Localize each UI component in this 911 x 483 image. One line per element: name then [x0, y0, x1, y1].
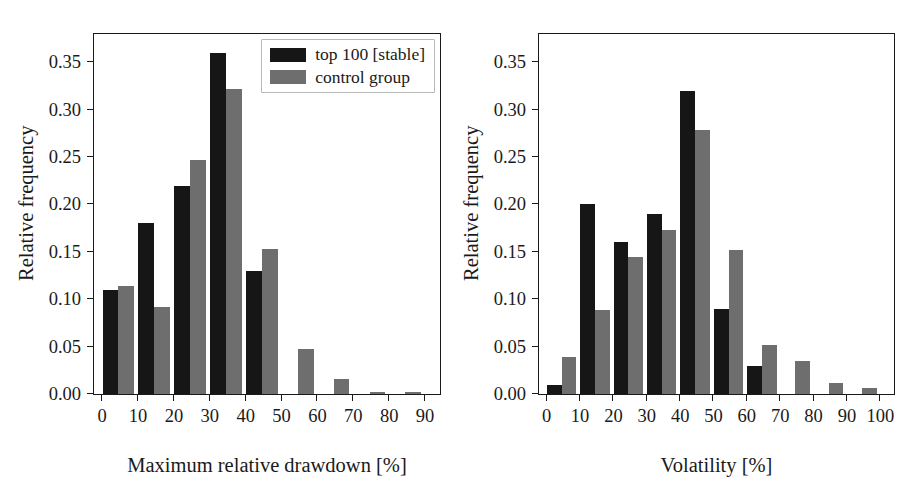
x-tick-volatility-5: 50 [712, 394, 713, 401]
x-axis-title-drawdown: Maximum relative drawdown [%] [93, 455, 441, 476]
bar-drawdown-50-60-control [298, 349, 314, 394]
x-tick-label-drawdown-2: 20 [165, 407, 184, 426]
bar-volatility-20-30-control [628, 257, 643, 394]
x-tick-label-drawdown-6: 60 [308, 407, 327, 426]
x-tick-volatility-8: 80 [813, 394, 814, 401]
x-tick-volatility-6: 60 [746, 394, 747, 401]
bar-drawdown-10-20-top100 [138, 223, 154, 394]
x-tick-label-volatility-5: 50 [704, 407, 723, 426]
bar-drawdown-30-40-top100 [210, 53, 226, 394]
legend-label-top100: top 100 [stable] [315, 46, 425, 64]
y-tick-volatility-4: 0.20 [532, 203, 539, 204]
x-tick-label-drawdown-9: 90 [416, 407, 435, 426]
y-tick-label-volatility-7: 0.35 [494, 53, 526, 72]
x-tick-label-volatility-4: 40 [671, 407, 690, 426]
bar-volatility-10-20-control [595, 310, 610, 394]
y-tick-volatility-7: 0.35 [532, 61, 539, 62]
x-tick-drawdown-3: 30 [209, 394, 210, 401]
plot-area-volatility: 0.000.050.100.150.200.250.300.35 0102030… [538, 33, 895, 395]
y-tick-drawdown-4: 0.20 [87, 203, 94, 204]
y-tick-label-volatility-5: 0.25 [494, 148, 526, 167]
x-tick-drawdown-5: 50 [281, 394, 282, 401]
y-tick-volatility-3: 0.15 [532, 251, 539, 252]
bar-volatility-50-60-top100 [714, 309, 729, 394]
x-tick-volatility-7: 70 [779, 394, 780, 401]
y-axis-title-volatility: Relative frequency [461, 103, 482, 303]
y-tick-label-volatility-3: 0.15 [494, 243, 526, 262]
bar-volatility-30-40-top100 [647, 214, 662, 394]
bar-volatility-30-40-control [662, 230, 677, 394]
x-tick-drawdown-0: 0 [101, 394, 102, 401]
bar-drawdown-0-10-control [118, 286, 134, 394]
bar-drawdown-70-80-control [370, 392, 386, 394]
bar-volatility-40-50-control [695, 130, 710, 394]
bar-volatility-0-10-top100 [547, 385, 562, 394]
legend: top 100 [stable] control group [261, 39, 435, 93]
y-tick-label-drawdown-6: 0.30 [49, 100, 81, 119]
y-tick-drawdown-1: 0.05 [87, 346, 94, 347]
bar-volatility-50-60-control [729, 250, 744, 394]
x-tick-label-drawdown-1: 10 [129, 407, 148, 426]
y-tick-label-drawdown-3: 0.15 [49, 243, 81, 262]
x-tick-label-drawdown-8: 80 [380, 407, 399, 426]
x-tick-label-volatility-1: 10 [571, 407, 590, 426]
y-tick-drawdown-3: 0.15 [87, 251, 94, 252]
plot-area-drawdown: 0.000.050.100.150.200.250.300.35 0102030… [93, 33, 441, 395]
y-tick-drawdown-7: 0.35 [87, 61, 94, 62]
legend-entry-control: control group [270, 69, 425, 87]
x-tick-label-drawdown-0: 0 [98, 407, 107, 426]
x-tick-label-volatility-2: 20 [604, 407, 623, 426]
y-tick-drawdown-0: 0.00 [87, 393, 94, 394]
panel-drawdown: 0.000.050.100.150.200.250.300.35 0102030… [0, 0, 456, 483]
y-tick-volatility-6: 0.30 [532, 109, 539, 110]
bar-drawdown-0-10-top100 [103, 290, 119, 394]
bar-volatility-70-80-control [795, 361, 810, 394]
bar-drawdown-20-30-top100 [174, 186, 190, 394]
legend-swatch-icon-control [270, 70, 306, 84]
x-tick-volatility-3: 30 [646, 394, 647, 401]
x-tick-drawdown-2: 20 [173, 394, 174, 401]
legend-label-control: control group [315, 69, 410, 87]
x-tick-label-volatility-6: 60 [738, 407, 757, 426]
y-tick-label-volatility-1: 0.05 [494, 337, 526, 356]
x-tick-volatility-10: 100 [879, 394, 880, 401]
legend-entry-top100: top 100 [stable] [270, 46, 425, 64]
y-tick-label-drawdown-2: 0.10 [49, 290, 81, 309]
y-tick-label-drawdown-7: 0.35 [49, 53, 81, 72]
bar-volatility-10-20-top100 [580, 204, 595, 394]
y-tick-label-volatility-6: 0.30 [494, 100, 526, 119]
x-tick-volatility-4: 40 [679, 394, 680, 401]
bar-drawdown-80-90-control [405, 392, 421, 394]
y-tick-label-drawdown-1: 0.05 [49, 337, 81, 356]
legend-swatch-icon-top100 [270, 48, 306, 62]
x-tick-label-drawdown-3: 30 [201, 407, 220, 426]
bar-drawdown-10-20-control [154, 307, 170, 394]
x-tick-label-volatility-9: 90 [838, 407, 857, 426]
x-tick-label-volatility-0: 0 [542, 407, 551, 426]
bar-volatility-40-50-top100 [680, 91, 695, 394]
bar-drawdown-30-40-control [226, 89, 242, 394]
x-tick-label-drawdown-7: 70 [344, 407, 363, 426]
x-tick-volatility-2: 20 [612, 394, 613, 401]
x-tick-drawdown-8: 80 [388, 394, 389, 401]
y-tick-drawdown-5: 0.25 [87, 156, 94, 157]
y-tick-drawdown-6: 0.30 [87, 109, 94, 110]
x-axis-title-volatility: Volatility [%] [538, 455, 895, 476]
bar-drawdown-40-50-control [262, 249, 278, 394]
bar-volatility-90-100-control [862, 388, 877, 394]
x-tick-drawdown-7: 70 [352, 394, 353, 401]
y-tick-label-drawdown-5: 0.25 [49, 148, 81, 167]
y-tick-volatility-2: 0.10 [532, 298, 539, 299]
x-tick-label-volatility-7: 70 [771, 407, 790, 426]
x-tick-volatility-9: 90 [846, 394, 847, 401]
bars-layer-volatility [539, 34, 894, 394]
x-tick-drawdown-1: 10 [137, 394, 138, 401]
bar-volatility-20-30-top100 [614, 242, 629, 394]
y-tick-label-drawdown-0: 0.00 [49, 385, 81, 404]
bar-drawdown-60-70-control [334, 379, 350, 394]
y-tick-label-drawdown-4: 0.20 [49, 195, 81, 214]
panel-volatility: 0.000.050.100.150.200.250.300.35 0102030… [456, 0, 911, 483]
x-tick-label-drawdown-5: 50 [272, 407, 291, 426]
y-tick-label-volatility-0: 0.00 [494, 385, 526, 404]
bar-drawdown-40-50-top100 [246, 271, 262, 394]
